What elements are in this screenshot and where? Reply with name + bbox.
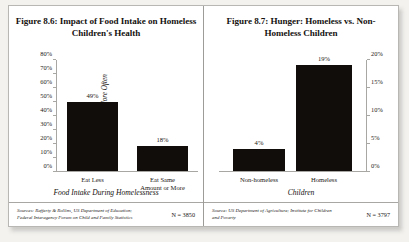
y-tick-label-8-7: 20% (371, 50, 383, 56)
figure-footer-8-6: Sources: Rafferty & Rollins, US Departme… (17, 207, 197, 221)
bar-non-homeless[interactable] (233, 149, 285, 171)
y-tick-8-6 (53, 73, 56, 74)
y-tick-label-8-6: 0% (43, 162, 52, 168)
y-tick-8-6 (53, 101, 56, 102)
y-tick-8-6 (53, 87, 56, 88)
y-tick-8-6 (53, 59, 56, 60)
y-tick-label-8-7: 15% (371, 78, 383, 84)
figure-panel-8-7: Figure 8.7: Hunger: Homeless vs. Non-Hom… (204, 6, 398, 226)
chart-plot-area-8-6: % of Children Ill More Often 0% 10% (56, 60, 198, 172)
bar-eat-less[interactable] (67, 102, 118, 171)
y-tick-8-7 (367, 115, 370, 116)
y-tick-8-6 (53, 171, 56, 172)
y-tick-8-7 (367, 143, 370, 144)
x-axis-label-8-7: Children (208, 188, 394, 197)
y-tick-label-8-6: 50% (40, 92, 52, 98)
footer-divider-8-6 (9, 202, 203, 203)
y-tick-8-6 (53, 157, 56, 158)
y-tick-label-8-6: 40% (40, 106, 52, 112)
y-tick-label-8-6: 60% (40, 78, 52, 84)
y-tick-8-6 (53, 129, 56, 130)
page-background: Figure 8.6: Impact of Food Intake on Hom… (0, 0, 409, 242)
y-tick-label-8-6: 80% (40, 50, 52, 56)
footer-divider-8-7 (204, 202, 398, 203)
chart-plot-area-8-7: % of Children Who Are Hungry 0% 5% 10% 1… (219, 60, 367, 172)
y-tick-8-7 (367, 171, 370, 172)
bar-homeless[interactable] (296, 65, 352, 171)
figure-panel-8-6: Figure 8.6: Impact of Food Intake on Hom… (9, 6, 204, 226)
sample-size-8-6: N = 3850 (172, 211, 197, 218)
y-tick-label-8-7: 5% (371, 134, 380, 140)
y-tick-label-8-6: 30% (40, 120, 52, 126)
y-axis-line-8-6 (56, 60, 57, 172)
y-axis-line-8-7 (366, 60, 367, 172)
bar-value-non-homeless: 4% (233, 140, 285, 147)
sample-size-8-7: N = 3797 (367, 211, 392, 218)
x-tick-label-homeless: Homeless (290, 176, 358, 184)
bar-eat-same[interactable] (137, 146, 188, 171)
y-tick-label-8-6: 10% (40, 148, 52, 154)
source-note-8-7: Source: US Department of Agriculture; In… (212, 207, 340, 221)
y-tick-label-8-6: 70% (40, 64, 52, 70)
x-axis-line-8-7 (219, 171, 367, 172)
x-tick-label-eat-less: Eat Less (62, 176, 123, 184)
x-tick-label-non-homeless: Non-homeless (225, 176, 293, 184)
source-note-8-6: Sources: Rafferty & Rollins, US Departme… (17, 207, 145, 221)
y-tick-8-7 (367, 87, 370, 88)
y-tick-8-7 (367, 59, 370, 60)
x-axis-line-8-6 (56, 171, 198, 172)
x-axis-label-8-6: Food Intake During Homelessness (13, 188, 199, 197)
figure-panels: Figure 8.6: Impact of Food Intake on Hom… (9, 6, 398, 226)
bar-value-eat-less: 49% (67, 93, 118, 100)
figure-footer-8-7: Source: US Department of Agriculture; In… (212, 207, 392, 221)
figure-title-8-6: Figure 8.6: Impact of Food Intake on Hom… (15, 15, 197, 40)
y-tick-8-6 (53, 143, 56, 144)
y-tick-label-8-6: 20% (40, 134, 52, 140)
figure-title-8-7: Figure 8.7: Hunger: Homeless vs. Non-Hom… (210, 15, 392, 40)
y-tick-8-6 (53, 115, 56, 116)
figure-frame: Figure 8.6: Impact of Food Intake on Hom… (8, 5, 399, 227)
y-tick-label-8-7: 10% (371, 106, 383, 112)
y-tick-label-8-7: 0% (371, 162, 380, 168)
bar-value-eat-same: 18% (137, 137, 188, 144)
bar-value-homeless: 19% (296, 56, 352, 63)
